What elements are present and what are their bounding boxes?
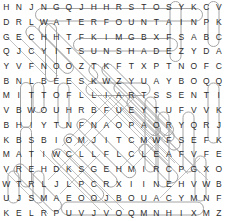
grid-cell[interactable]: Q xyxy=(0,44,13,59)
grid-cell[interactable]: A xyxy=(50,191,63,206)
grid-cell[interactable]: S xyxy=(75,74,88,89)
grid-cell[interactable]: V xyxy=(188,147,201,162)
grid-cell[interactable]: A xyxy=(150,74,163,89)
grid-cell[interactable]: B xyxy=(88,103,101,118)
grid-cell[interactable]: T xyxy=(63,29,76,44)
grid-cell[interactable]: M xyxy=(0,147,13,162)
grid-cell[interactable]: R xyxy=(100,177,113,192)
grid-cell[interactable]: S xyxy=(125,0,138,15)
grid-cell[interactable]: O xyxy=(150,0,163,15)
grid-cell[interactable]: J xyxy=(25,0,38,15)
grid-cell[interactable]: K xyxy=(213,15,226,30)
grid-cell[interactable]: W xyxy=(50,147,63,162)
grid-cell[interactable]: S xyxy=(113,44,126,59)
grid-cell[interactable]: I xyxy=(138,162,151,177)
grid-cell[interactable]: P xyxy=(200,15,213,30)
grid-cell[interactable]: H xyxy=(13,118,26,133)
grid-cell[interactable]: S xyxy=(25,191,38,206)
grid-cell[interactable]: W xyxy=(200,177,213,192)
grid-cell[interactable]: V xyxy=(100,206,113,221)
grid-cell[interactable]: O xyxy=(63,132,76,147)
grid-cell[interactable]: Q xyxy=(125,206,138,221)
grid-cell[interactable]: A xyxy=(13,147,26,162)
grid-cell[interactable]: G xyxy=(125,29,138,44)
grid-cell[interactable]: G xyxy=(50,0,63,15)
grid-cell[interactable]: C xyxy=(163,191,176,206)
grid-cell[interactable]: M xyxy=(38,191,51,206)
grid-cell[interactable]: N xyxy=(150,206,163,221)
grid-cell[interactable]: D xyxy=(50,162,63,177)
grid-cell[interactable]: U xyxy=(138,191,151,206)
grid-cell[interactable]: M xyxy=(113,29,126,44)
grid-cell[interactable]: L xyxy=(75,147,88,162)
grid-cell[interactable]: F xyxy=(113,59,126,74)
grid-cell[interactable]: R xyxy=(113,0,126,15)
grid-cell[interactable]: J xyxy=(50,177,63,192)
grid-cell[interactable]: N xyxy=(13,0,26,15)
grid-cell[interactable]: Y xyxy=(138,103,151,118)
grid-cell[interactable]: N xyxy=(13,74,26,89)
grid-cell[interactable]: O xyxy=(125,191,138,206)
grid-cell[interactable]: I xyxy=(175,15,188,30)
grid-cell[interactable]: N xyxy=(138,15,151,30)
grid-cell[interactable]: N xyxy=(38,0,51,15)
grid-cell[interactable]: O xyxy=(113,118,126,133)
grid-cell[interactable]: C xyxy=(200,0,213,15)
grid-cell[interactable]: S xyxy=(175,132,188,147)
grid-cell[interactable]: T xyxy=(25,88,38,103)
grid-cell[interactable]: U xyxy=(113,103,126,118)
grid-cell[interactable]: E xyxy=(163,177,176,192)
grid-cell[interactable]: O xyxy=(113,15,126,30)
grid-cell[interactable]: O xyxy=(50,59,63,74)
grid-cell[interactable]: M xyxy=(125,162,138,177)
grid-cell[interactable]: I xyxy=(175,206,188,221)
grid-cell[interactable]: I xyxy=(125,177,138,192)
grid-cell[interactable]: G xyxy=(0,29,13,44)
grid-cell[interactable]: V xyxy=(188,103,201,118)
grid-cell[interactable]: S xyxy=(163,0,176,15)
grid-cell[interactable]: F xyxy=(63,88,76,103)
grid-cell[interactable]: E xyxy=(63,74,76,89)
grid-cell[interactable]: I xyxy=(38,147,51,162)
grid-cell[interactable]: T xyxy=(150,103,163,118)
grid-cell[interactable]: P xyxy=(75,177,88,192)
grid-cell[interactable]: M xyxy=(0,88,13,103)
grid-cell[interactable]: L xyxy=(113,147,126,162)
grid-cell[interactable]: I xyxy=(100,29,113,44)
grid-cell[interactable]: J xyxy=(100,191,113,206)
grid-cell[interactable]: L xyxy=(88,147,101,162)
grid-cell[interactable]: C xyxy=(213,29,226,44)
grid-cell[interactable]: P xyxy=(150,59,163,74)
grid-cell[interactable]: T xyxy=(63,44,76,59)
grid-cell[interactable]: O xyxy=(63,59,76,74)
grid-cell[interactable]: P xyxy=(175,162,188,177)
grid-cell[interactable]: Y xyxy=(125,74,138,89)
grid-cell[interactable]: C xyxy=(125,132,138,147)
grid-cell[interactable]: M xyxy=(200,206,213,221)
grid-cell[interactable]: E xyxy=(63,191,76,206)
grid-cell[interactable]: E xyxy=(125,103,138,118)
grid-cell[interactable]: F xyxy=(163,132,176,147)
grid-cell[interactable]: R xyxy=(75,103,88,118)
grid-cell[interactable]: A xyxy=(213,44,226,59)
grid-cell[interactable]: K xyxy=(188,0,201,15)
grid-cell[interactable]: E xyxy=(175,88,188,103)
grid-cell[interactable]: S xyxy=(163,88,176,103)
grid-cell[interactable]: E xyxy=(75,15,88,30)
grid-cell[interactable]: I xyxy=(13,88,26,103)
grid-cell[interactable]: B xyxy=(13,103,26,118)
grid-cell[interactable]: N xyxy=(200,191,213,206)
grid-cell[interactable]: O xyxy=(88,191,101,206)
grid-cell[interactable]: T xyxy=(13,177,26,192)
grid-cell[interactable]: F xyxy=(175,147,188,162)
grid-cell[interactable]: D xyxy=(0,15,13,30)
grid-cell[interactable]: O xyxy=(150,118,163,133)
grid-cell[interactable]: P xyxy=(125,118,138,133)
grid-cell[interactable]: H xyxy=(63,103,76,118)
grid-cell[interactable]: B xyxy=(200,29,213,44)
grid-cell[interactable]: T xyxy=(163,59,176,74)
grid-cell[interactable]: Y xyxy=(175,118,188,133)
grid-cell[interactable]: K xyxy=(213,103,226,118)
grid-cell[interactable]: B xyxy=(13,132,26,147)
grid-cell[interactable]: F xyxy=(100,15,113,30)
